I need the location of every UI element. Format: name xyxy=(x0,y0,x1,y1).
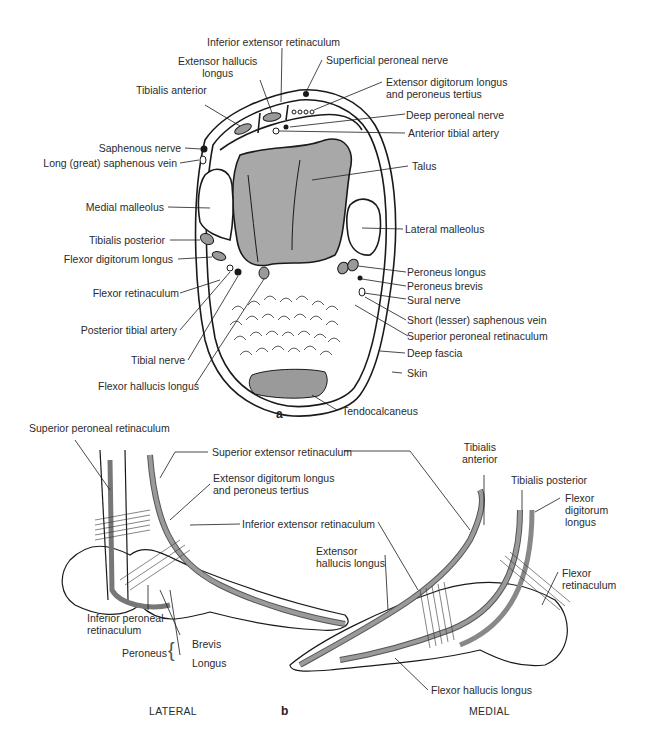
label-deep-fascia: Deep fascia xyxy=(407,347,462,359)
label-b-brevis: Brevis xyxy=(192,638,221,650)
label-superficial-peroneal-nerve: Superficial peroneal nerve xyxy=(326,54,448,66)
label-lateral-malleolus: Lateral malleolus xyxy=(405,223,484,235)
label-b-superior-peroneal-retinaculum: Superior peroneal retinaculum xyxy=(29,422,170,434)
label-tibial-nerve: Tibial nerve xyxy=(131,354,185,366)
caption-lateral: LATERAL xyxy=(149,705,197,717)
label-superior-peroneal-retinaculum: Superior peroneal retinaculum xyxy=(407,330,548,342)
brace-icon: { xyxy=(168,640,175,660)
label-skin: Skin xyxy=(407,367,427,379)
label-sural-nerve: Sural nerve xyxy=(407,294,461,306)
label-tibialis-anterior: Tibialis anterior xyxy=(136,84,207,96)
label-b-inferior-extensor-retinaculum: Inferior extensor retinaculum xyxy=(242,518,375,530)
label-peroneus-longus: Peroneus longus xyxy=(407,266,486,278)
label-talus: Talus xyxy=(412,160,437,172)
label-b-longus: Longus xyxy=(192,657,226,669)
fat-pad xyxy=(230,296,340,355)
label-flexor-digitorum-longus: Flexor digitorum longus xyxy=(64,253,173,265)
label-deep-peroneal-nerve: Deep peroneal nerve xyxy=(406,109,504,121)
lateral-malleolus-bone xyxy=(347,199,381,255)
panel-b-tag: b xyxy=(281,704,288,718)
label-extensor-hallucis-longus: Extensor hallucis longus xyxy=(178,55,257,79)
label-b-tibialis-posterior: Tibialis posterior xyxy=(511,474,587,486)
label-b-peroneus: Peroneus xyxy=(122,647,167,659)
label-short-saphenous-vein: Short (lesser) saphenous vein xyxy=(407,314,547,326)
tendocalcaneus-tendon xyxy=(249,369,327,398)
label-b-superior-extensor-retinaculum: Superior extensor retinaculum xyxy=(212,446,352,458)
label-extensor-digitorum-longus: Extensor digitorum longus and peroneus t… xyxy=(386,76,507,100)
label-b-extensor-hallucis-longus: Extensor hallucis longus xyxy=(316,545,385,569)
label-b-extensor-digitorum-longus: Extensor digitorum longus and peroneus t… xyxy=(213,472,334,496)
label-long-saphenous-vein: Long (great) saphenous vein xyxy=(43,157,177,169)
anatomy-illustration xyxy=(0,0,647,750)
label-b-flexor-hallucis-longus: Flexor hallucis longus xyxy=(431,684,532,696)
label-inferior-extensor-retinaculum: Inferior extensor retinaculum xyxy=(207,36,340,48)
label-saphenous-nerve: Saphenous nerve xyxy=(99,142,181,154)
label-flexor-hallucis-longus: Flexor hallucis longus xyxy=(98,380,199,392)
extensor-hallucis-tendon xyxy=(262,111,281,122)
label-tibialis-posterior: Tibialis posterior xyxy=(89,234,165,246)
label-medial-malleolus: Medial malleolus xyxy=(86,201,164,213)
label-posterior-tibial-artery: Posterior tibial artery xyxy=(81,324,177,336)
label-b-flexor-digitorum-longus: Flexor digitorum longus xyxy=(565,492,608,528)
label-b-flexor-retinaculum: Flexor retinaculum xyxy=(562,567,616,591)
panel-a-tag: a xyxy=(276,407,283,421)
label-flexor-retinaculum: Flexor retinaculum xyxy=(93,287,179,299)
label-peroneus-brevis: Peroneus brevis xyxy=(407,280,483,292)
medial-malleolus-bone xyxy=(198,169,233,240)
label-anterior-tibial-artery: Anterior tibial artery xyxy=(408,127,499,139)
label-tendocalcaneus: Tendocalcaneus xyxy=(342,405,418,417)
label-b-inferior-peroneal-retinaculum: Inferior peroneal retinaculum xyxy=(87,612,163,636)
label-b-tibialis-anterior: Tibialis anterior xyxy=(462,441,498,465)
caption-medial: MEDIAL xyxy=(469,705,510,717)
